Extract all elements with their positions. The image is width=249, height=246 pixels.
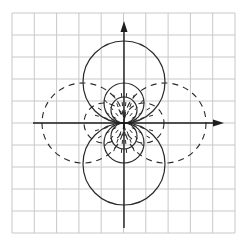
field-tick: [105, 100, 108, 103]
x-axis-arrow-icon: [213, 120, 224, 127]
field-tick: [130, 103, 131, 107]
field-tick: [117, 139, 118, 143]
dipole-field-diagram: [0, 0, 249, 246]
field-tick: [133, 95, 134, 99]
field-tick: [127, 111, 128, 115]
field-tick: [130, 139, 131, 143]
field-tick: [95, 115, 99, 116]
y-axis-arrow-icon: [121, 21, 128, 32]
field-tick: [114, 147, 115, 151]
field-tick: [147, 136, 150, 138]
field-tick: [114, 95, 115, 99]
field-tick: [149, 130, 153, 131]
field-tick: [116, 130, 119, 133]
field-tick: [130, 113, 133, 116]
field-tick: [105, 143, 108, 146]
field-tick: [147, 108, 150, 110]
field-tick: [149, 115, 153, 116]
field-tick: [130, 130, 133, 133]
field-tick: [133, 147, 134, 151]
field-tick: [95, 130, 99, 131]
field-tick: [116, 113, 119, 116]
field-tick: [127, 131, 128, 135]
field-tick: [117, 103, 118, 107]
axes: [33, 21, 224, 228]
